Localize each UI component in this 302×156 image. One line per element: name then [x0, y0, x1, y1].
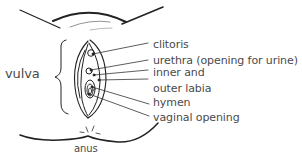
thigh-line-right [122, 7, 163, 24]
pubic-inner-curve-2 [90, 28, 112, 30]
pubic-inner-curve [70, 21, 110, 27]
anus-marks [80, 126, 100, 134]
leader-inner-labia [94, 70, 148, 75]
label-clitoris: clitoris [153, 38, 189, 51]
leader-hymen [92, 87, 149, 104]
label-inner-labia: inner and [153, 66, 205, 79]
leader-vaginal-opening [89, 94, 149, 116]
label-vaginal-opening: vaginal opening [153, 111, 240, 124]
leader-urethra [91, 60, 148, 70]
buttocks-outline [20, 123, 158, 142]
inner-labia-left [81, 44, 88, 116]
upper-body-outline [20, 10, 60, 28]
vulva-brace [55, 40, 68, 114]
vulva-label: vulva [5, 67, 40, 80]
leader-clitoris [93, 43, 148, 54]
vulva-diagram-illustration [0, 0, 302, 156]
pubic-mound-curve [53, 13, 126, 22]
label-hymen: hymen [153, 96, 190, 109]
anus-label: anus [74, 142, 98, 155]
label-outer-labia: outer labia [153, 82, 211, 95]
